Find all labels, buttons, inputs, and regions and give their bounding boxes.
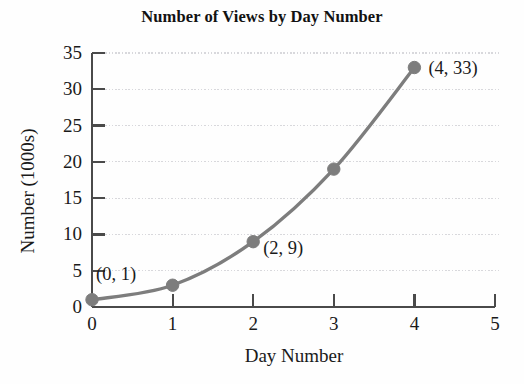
x-axis-tick-label: 0 (87, 313, 97, 335)
data-point-marker (408, 61, 420, 73)
point-annotation-label: (0, 1) (96, 264, 136, 285)
data-point-marker (86, 294, 98, 306)
chart-container: Number of Views by Day Number 0510152025… (0, 0, 524, 384)
point-annotation-label: (4, 33) (428, 58, 477, 79)
point-annotation-label: (2, 9) (263, 238, 303, 259)
data-point-marker (247, 235, 259, 247)
y-axis-tick-label: 25 (34, 115, 82, 137)
y-axis-tick-label: 20 (34, 151, 82, 173)
axes (92, 53, 495, 307)
x-axis-tick-label: 1 (168, 313, 178, 335)
y-axis-tick-label: 15 (34, 187, 82, 209)
x-axis-tick-label: 4 (410, 313, 420, 335)
y-axis-tick-label: 0 (34, 296, 82, 318)
x-axis-tick-label: 5 (490, 313, 500, 335)
axis-ticks (92, 53, 495, 307)
data-point-marker (328, 163, 340, 175)
x-axis-tick-label: 2 (248, 313, 258, 335)
x-axis-tick-label: 3 (329, 313, 339, 335)
y-axis-tick-label: 5 (34, 260, 82, 282)
series-curve (92, 68, 414, 300)
y-axis-title: Number (1000s) (17, 91, 39, 291)
y-axis-tick-label: 10 (34, 223, 82, 245)
x-axis-title: Day Number (92, 345, 496, 367)
data-point-marker (166, 279, 178, 291)
y-axis-tick-label: 30 (34, 78, 82, 100)
y-axis-tick-label: 35 (34, 42, 82, 64)
data-series-line (92, 68, 414, 300)
